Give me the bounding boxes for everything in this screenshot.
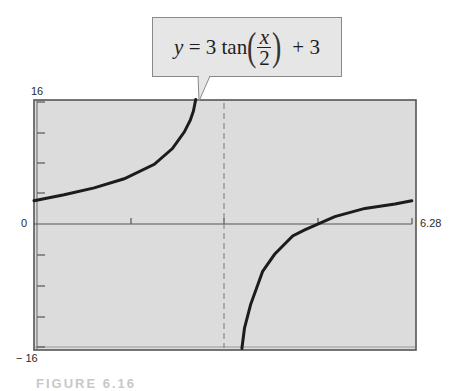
equation-lhs: y [174, 35, 183, 60]
y-min-label: − 16 [16, 352, 38, 364]
fraction-denominator: 2 [259, 48, 270, 68]
fraction-numerator: x [260, 27, 269, 47]
y-max-label: 16 [31, 85, 43, 97]
figure-caption: FIGURE 6.16 [36, 376, 136, 391]
equation-tail: + 3 [282, 35, 320, 60]
open-paren: ( [247, 27, 256, 67]
fraction: x 2 [257, 27, 271, 68]
equation-callout: y = 3 tan ( x 2 ) + 3 [152, 17, 342, 77]
equation-coef: 3 tan [206, 35, 247, 60]
plot-area [34, 100, 416, 350]
x-max-label: 6.28 [420, 217, 441, 229]
x-origin-label: 0 [21, 217, 27, 229]
callout-pointer-seam [199, 75, 209, 77]
equation-equals: = [183, 35, 205, 60]
close-paren: ) [272, 27, 281, 67]
callout-pointer [198, 76, 210, 101]
